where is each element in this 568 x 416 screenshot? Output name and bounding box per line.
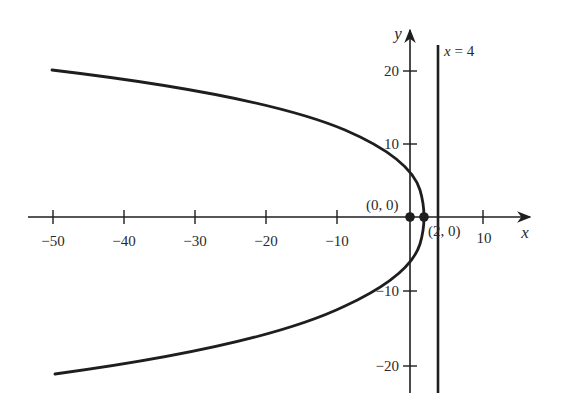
chart-canvas: −50 −40 −30 −20 −10 10 20 10 −10 −20 x y…	[0, 0, 568, 416]
focus-point-dot	[405, 212, 415, 222]
x-tick-label: 10	[477, 230, 492, 246]
x-tick-label: −40	[112, 233, 135, 249]
vertex-point-label: (2, 0)	[428, 223, 461, 240]
y-axis-label: y	[392, 24, 402, 43]
x-tick-label: −30	[183, 233, 206, 249]
y-tick-label: 20	[384, 63, 399, 79]
x-tick-label: −10	[325, 233, 348, 249]
y-tick-label: −10	[376, 283, 399, 299]
x-tick-label: −50	[41, 233, 64, 249]
y-tick-label: 10	[384, 136, 399, 152]
x-axis-label: x	[520, 223, 529, 242]
x-tick-label: −20	[254, 233, 277, 249]
parabola-curve	[52, 70, 424, 374]
focus-point-label: (0, 0)	[366, 197, 399, 214]
directrix-label-rest: = 4	[451, 43, 475, 59]
vertex-point-dot	[419, 212, 429, 222]
y-tick-label: −20	[376, 358, 399, 374]
directrix-label: x = 4	[443, 43, 475, 59]
